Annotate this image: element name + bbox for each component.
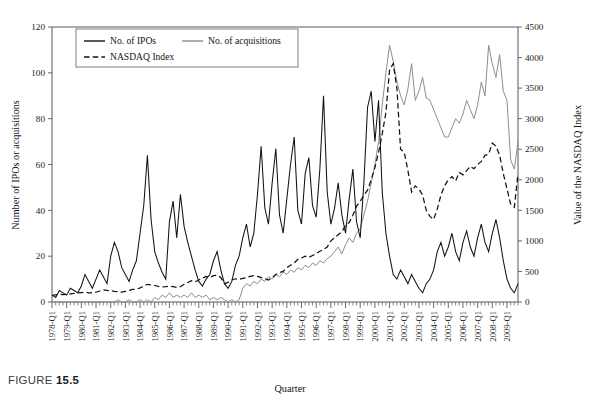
x-axis-tick-label: 1980-Q1	[77, 311, 87, 342]
x-axis-tick-label: 1979-Q1	[62, 311, 72, 342]
x-axis: 1978-Q11979-Q11980-Q11981-Q11982-Q11983-…	[47, 302, 518, 342]
x-axis-tick-label: 1998-Q1	[341, 311, 351, 342]
x-axis-tick-label: 2001-Q1	[385, 311, 395, 342]
caption-prefix: FIGURE	[8, 374, 53, 386]
y-axis-left-tick-label: 60	[36, 160, 46, 170]
x-axis-tick-label: 1992-Q1	[253, 311, 263, 342]
legend-label-acquisitions: No. of acquisitions	[208, 35, 281, 46]
x-axis-tick-label: 1981-Q1	[91, 311, 101, 342]
x-axis-tick-label: 2009-Q1	[502, 311, 512, 342]
chart-legend: No. of IPOs No. of acquisitions NASDAQ I…	[76, 29, 298, 67]
y-axis-left-tick-label: 0	[40, 297, 45, 307]
x-axis-tick-label: 1988-Q1	[194, 311, 204, 342]
y-axis-right-tick-label: 2500	[525, 144, 544, 154]
y-axis-right-tick-label: 1000	[525, 236, 544, 246]
series-line-nasdaq	[52, 64, 518, 296]
series-line-acquisitions	[52, 45, 518, 302]
y-axis-left-tick-label: 120	[31, 22, 45, 32]
x-axis-tick-label: 1999-Q1	[355, 311, 365, 342]
figure-container: 020406080100120 050010001500200025003000…	[0, 0, 595, 401]
x-axis-tick-label: 1991-Q1	[238, 311, 248, 342]
y-axis-left-tick-label: 20	[36, 251, 46, 261]
x-axis-tick-label: 2006-Q1	[458, 311, 468, 342]
x-axis-tick-label: 2008-Q1	[488, 311, 498, 342]
x-axis-tick-label: 1983-Q1	[121, 311, 131, 342]
y-axis-right: 050010001500200025003000350040004500	[518, 22, 544, 307]
y-axis-right-tick-label: 4000	[525, 53, 544, 63]
x-axis-tick-label: 1990-Q1	[223, 311, 233, 342]
caption-number: 15.5	[56, 374, 79, 386]
x-axis-tick-label: 2002-Q1	[399, 311, 409, 342]
x-axis-tick-label: 1978-Q1	[47, 311, 57, 342]
x-axis-tick-label: 1995-Q1	[297, 311, 307, 342]
x-axis-tick-label: 2003-Q1	[414, 311, 424, 342]
legend-label-ipos: No. of IPOs	[110, 35, 156, 46]
x-axis-tick-label: 1984-Q1	[135, 311, 145, 342]
y-axis-left-tick-label: 80	[36, 114, 46, 124]
x-axis-tick-label: 1986-Q1	[165, 311, 175, 342]
x-axis-tick-label: 2000-Q1	[370, 311, 380, 342]
x-axis-tick-label: 1985-Q1	[150, 311, 160, 342]
y-axis-right-tick-label: 4500	[525, 22, 544, 32]
x-axis-tick-label: 1982-Q1	[106, 311, 116, 342]
x-axis-tick-label: 1987-Q1	[179, 311, 189, 342]
y-axis-right-tick-label: 3000	[525, 114, 544, 124]
series-layer	[52, 45, 518, 302]
x-axis-title: Quarter	[274, 383, 306, 394]
y-axis-left-tick-label: 40	[36, 206, 46, 216]
x-axis-tick-label: 1989-Q1	[209, 311, 219, 342]
figure-caption: FIGURE 15.5	[8, 374, 79, 386]
chart-canvas: 020406080100120 050010001500200025003000…	[0, 0, 595, 401]
y-axis-right-tick-label: 500	[525, 267, 539, 277]
y-axis-right-title: Value of the NASDAQ Index	[572, 105, 583, 225]
y-axis-right-tick-label: 3500	[525, 83, 544, 93]
x-axis-tick-label: 1996-Q1	[311, 311, 321, 342]
legend-label-nasdaq: NASDAQ Index	[110, 51, 174, 62]
series-line-ipos	[52, 91, 518, 297]
y-axis-right-tick-label: 0	[525, 297, 530, 307]
y-axis-right-tick-label: 2000	[525, 175, 544, 185]
x-axis-tick-label: 2005-Q1	[443, 311, 453, 342]
y-axis-left-tick-label: 100	[31, 68, 45, 78]
plot-frame	[52, 27, 518, 302]
y-axis-right-tick-label: 1500	[525, 206, 544, 216]
x-axis-tick-label: 1994-Q1	[282, 311, 292, 342]
x-axis-tick-label: 1997-Q1	[326, 311, 336, 342]
x-axis-tick-label: 1993-Q1	[267, 311, 277, 342]
y-axis-left-title: Number of IPOs or acquisitions	[10, 100, 21, 230]
x-axis-tick-label: 2004-Q1	[429, 311, 439, 342]
y-axis-left: 020406080100120	[31, 22, 52, 307]
x-axis-tick-label: 2007-Q1	[473, 311, 483, 342]
